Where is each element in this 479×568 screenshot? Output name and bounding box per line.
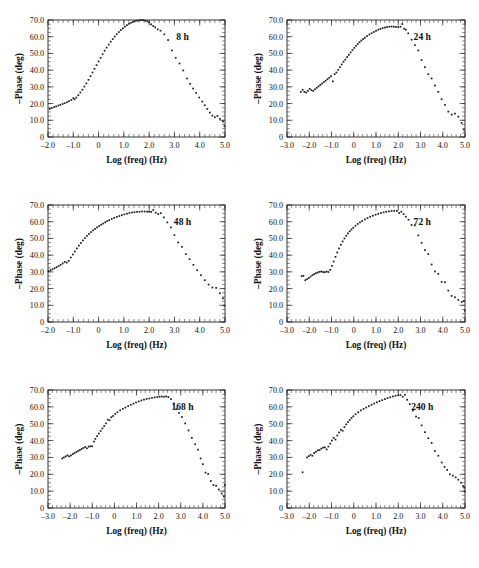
x-tick-label: –2.0: [40, 326, 55, 335]
y-tick-label: 30.0: [269, 83, 283, 92]
y-tick-label: 70.0: [269, 386, 283, 395]
y-tick-label: 50.0: [30, 420, 44, 429]
panel-72h: –3.0–2.0–1.001.02.03.04.05.0010.020.030.…: [239, 185, 479, 370]
x-tick-label: –3.0: [279, 141, 294, 150]
panel-48h: –2.0–1.001.02.03.04.05.0010.020.030.040.…: [0, 185, 239, 370]
x-tick-label: 1.0: [371, 512, 381, 521]
y-tick-label: 50.0: [30, 234, 44, 243]
data-series: [61, 396, 225, 498]
y-tick-label: 0: [279, 318, 283, 327]
panel-annotation: 168 h: [171, 401, 194, 412]
y-tick-label: 20.0: [269, 285, 283, 294]
x-tick-label: 3.0: [415, 141, 425, 150]
x-tick-label: –3.0: [279, 512, 294, 521]
panel-annotation: 48 h: [174, 216, 192, 227]
y-tick-label: 60.0: [30, 218, 44, 227]
panel-168h: –3.0–2.0–1.001.02.03.04.05.0010.020.030.…: [0, 370, 239, 568]
y-tick-label: 60.0: [30, 403, 44, 412]
y-axis-title: –Phase (deg): [253, 238, 264, 290]
y-tick-label: 40.0: [30, 66, 44, 75]
x-axis-title: Log (freq) (Hz): [106, 155, 167, 166]
x-tick-label: 2.0: [393, 326, 403, 335]
x-axis-title: Log (freq) (Hz): [106, 526, 167, 537]
y-tick-label: 10.0: [269, 301, 283, 310]
x-tick-label: 5.0: [220, 512, 230, 521]
x-tick-label: 5.0: [460, 141, 470, 150]
y-axis-title: –Phase (deg): [14, 53, 25, 105]
y-tick-label: 60.0: [269, 33, 283, 42]
x-tick-label: 0: [112, 512, 116, 521]
y-tick-label: 10.0: [30, 301, 44, 310]
x-tick-label: 1.0: [119, 326, 129, 335]
y-tick-label: 40.0: [269, 437, 283, 446]
x-tick-label: 1.0: [371, 141, 381, 150]
x-tick-label: 2.0: [393, 512, 403, 521]
x-tick-label: 5.0: [460, 326, 470, 335]
x-tick-label: 2.0: [154, 512, 164, 521]
y-tick-label: 40.0: [269, 66, 283, 75]
y-tick-label: 30.0: [30, 268, 44, 277]
x-axis-title: Log (freq) (Hz): [346, 340, 407, 351]
bode-phase-figure: –2.0–1.001.02.03.04.05.0010.020.030.040.…: [0, 0, 479, 568]
y-tick-label: 20.0: [269, 470, 283, 479]
x-tick-label: 1.0: [131, 512, 141, 521]
y-tick-label: 30.0: [30, 453, 44, 462]
x-tick-label: 3.0: [169, 326, 179, 335]
y-tick-label: 60.0: [269, 218, 283, 227]
panel-annotation: 72 h: [414, 216, 432, 227]
x-axis-title: Log (freq) (Hz): [106, 340, 167, 351]
data-series: [48, 209, 226, 306]
x-tick-label: –1.0: [65, 326, 80, 335]
x-tick-label: 4.0: [195, 326, 205, 335]
x-tick-label: 3.0: [415, 512, 425, 521]
y-tick-label: 40.0: [30, 437, 44, 446]
y-tick-label: 20.0: [30, 100, 44, 109]
x-tick-label: –1.0: [65, 141, 80, 150]
x-tick-label: 2.0: [144, 141, 154, 150]
data-series: [300, 23, 465, 130]
x-tick-label: –3.0: [279, 326, 294, 335]
x-tick-label: 0: [352, 326, 356, 335]
x-tick-label: –2.0: [301, 141, 316, 150]
y-tick-label: 60.0: [30, 33, 44, 42]
data-series: [302, 394, 466, 492]
x-tick-label: –1.0: [323, 512, 338, 521]
y-axis-title: –Phase (deg): [253, 424, 264, 476]
x-tick-label: 5.0: [220, 326, 230, 335]
x-tick-label: –2.0: [62, 512, 77, 521]
y-tick-label: 0: [40, 318, 44, 327]
y-tick-label: 0: [279, 133, 283, 142]
data-series: [301, 210, 466, 311]
y-tick-label: 10.0: [30, 116, 44, 125]
x-tick-label: –1.0: [323, 326, 338, 335]
x-tick-label: 0: [97, 141, 101, 150]
x-tick-label: 4.0: [198, 512, 208, 521]
x-tick-label: 0: [352, 512, 356, 521]
panel-240h: –3.0–2.0–1.001.02.03.04.05.0010.020.030.…: [239, 370, 479, 568]
y-tick-label: 70.0: [30, 386, 44, 395]
x-axis-title: Log (freq) (Hz): [346, 155, 407, 166]
y-tick-label: 30.0: [30, 83, 44, 92]
y-tick-label: 20.0: [30, 285, 44, 294]
y-tick-label: 0: [40, 504, 44, 513]
y-tick-label: 70.0: [30, 201, 44, 210]
y-tick-label: 40.0: [30, 251, 44, 260]
y-axis-title: –Phase (deg): [253, 53, 264, 105]
x-tick-label: 3.0: [169, 141, 179, 150]
x-tick-label: –2.0: [40, 141, 55, 150]
y-tick-label: 50.0: [269, 420, 283, 429]
x-tick-label: 5.0: [220, 141, 230, 150]
y-tick-label: 30.0: [269, 453, 283, 462]
x-tick-label: –2.0: [301, 326, 316, 335]
y-tick-label: 50.0: [269, 49, 283, 58]
x-tick-label: –1.0: [323, 141, 338, 150]
x-tick-label: 0: [352, 141, 356, 150]
x-tick-label: 3.0: [176, 512, 186, 521]
x-tick-label: 4.0: [438, 141, 448, 150]
panel-annotation: 240 h: [411, 401, 434, 412]
y-tick-label: 20.0: [30, 470, 44, 479]
panel-annotation: 8 h: [176, 31, 189, 42]
y-tick-label: 30.0: [269, 268, 283, 277]
panel-8h: –2.0–1.001.02.03.04.05.0010.020.030.040.…: [0, 0, 239, 185]
x-tick-label: 4.0: [438, 326, 448, 335]
